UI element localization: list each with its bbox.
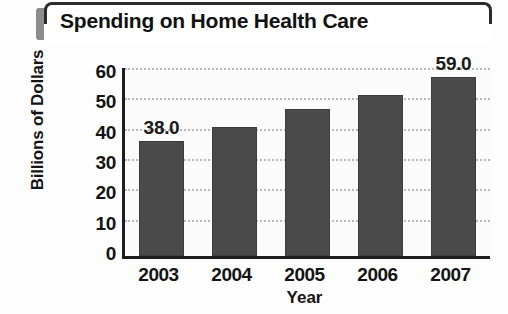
x-tick-label: 2003 [122,264,195,286]
chart-title: Spending on Home Health Care [60,8,368,34]
bar-slot [198,74,271,256]
y-tick-label: 50 [70,91,116,113]
y-axis-title: Billions of Dollars [28,20,48,220]
bar [139,141,184,256]
bar-value-label: 59.0 [417,53,490,75]
bar-slot: 59.0 [417,74,490,256]
y-tick-label: 20 [70,182,116,204]
y-tick-label: 10 [70,213,116,235]
bar [285,109,330,256]
plot-area: 38.059.0 [122,68,490,259]
x-tick-label: 2007 [414,264,487,286]
bar-slot: 38.0 [125,74,198,256]
x-axis-title: Year [122,288,487,308]
y-tick-label: 60 [70,61,116,83]
y-tick-label: 40 [70,122,116,144]
x-tick-label: 2005 [268,264,341,286]
bar-series: 38.059.0 [125,74,490,256]
y-tick-label: 0 [70,243,116,265]
bar-value-label: 38.0 [125,117,198,139]
bar [431,77,476,256]
bar [212,127,257,256]
chart-figure: Spending on Home Health Care Billions of… [0,0,508,314]
title-block: Spending on Home Health Care [36,2,492,42]
x-tick-label: 2004 [195,264,268,286]
y-tick-label: 30 [70,152,116,174]
bar-slot [271,74,344,256]
bar-slot [344,74,417,256]
x-tick-label: 2006 [341,264,414,286]
bar [358,95,403,256]
